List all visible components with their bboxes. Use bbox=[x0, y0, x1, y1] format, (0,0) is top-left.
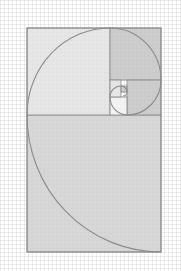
center-left-square bbox=[110, 80, 121, 97]
golden-spiral-diagram bbox=[0, 0, 181, 271]
top-right-square bbox=[110, 28, 161, 80]
fibonacci-squares bbox=[27, 28, 161, 252]
top-left-square bbox=[27, 28, 110, 115]
bottom-square bbox=[27, 115, 161, 252]
right-middle-square bbox=[127, 80, 161, 115]
